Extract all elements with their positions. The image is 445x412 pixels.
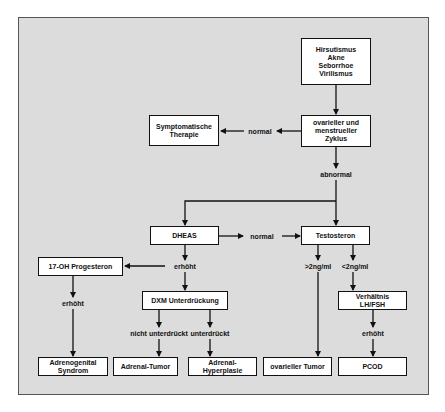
lh-fsh-ratio-node: Verhältnis LH/FSH <box>338 291 407 310</box>
adrenal-tumor-node: Adrenal-Tumor <box>113 357 178 376</box>
testosteron-low-label: <2ng/ml <box>342 263 369 270</box>
not-suppressed-label: nicht unterdrückt <box>130 330 188 337</box>
adrenogenital-syndrome-node: Adrenogenital Syndrom <box>38 357 108 376</box>
dheas-elevated-label: erhöht <box>174 263 196 270</box>
symptoms-node: Hirsutismus Akne Seborrhoe Virilismus <box>301 38 371 85</box>
symptomatic-therapy-node: Symptomatische Therapie <box>149 115 219 146</box>
cycle-abnormal-label: abnormal <box>320 171 352 178</box>
dheas-normal-label: normal <box>250 233 273 240</box>
17-oh-progesteron-node: 17-OH Progesteron <box>38 257 123 276</box>
cycle-normal-label: normal <box>248 128 271 135</box>
dxm-suppression-node: DXM Unterdrückung <box>142 291 228 310</box>
testosteron-node: Testosteron <box>301 226 370 245</box>
ovarian-tumor-node: ovarieller Tumor <box>263 357 332 376</box>
ohp-elevated-label: erhöht <box>62 300 84 307</box>
adrenal-hyperplasia-node: Adrenal- Hyperplasie <box>188 357 257 376</box>
cycle-node: ovarieller und menstrueller Zyklus <box>301 115 371 147</box>
suppressed-label: unterdrückt <box>191 330 230 337</box>
testosteron-high-label: >2ng/ml <box>305 263 332 270</box>
dheas-node: DHEAS <box>150 226 219 245</box>
pcod-node: PCOD <box>338 357 407 376</box>
connector-lines <box>0 0 445 412</box>
lh-fsh-elevated-label: erhöht <box>362 330 384 337</box>
